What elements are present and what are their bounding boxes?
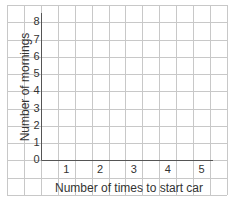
x-tick-label: 2 bbox=[93, 164, 107, 175]
x-axis-title: Number of times to start car bbox=[55, 181, 203, 195]
y-tick-label: 8 bbox=[28, 16, 40, 27]
y-axis-title: Number of mornings bbox=[18, 27, 32, 147]
y-tick-label: 0 bbox=[28, 154, 40, 165]
x-tick-label: 4 bbox=[161, 164, 175, 175]
x-tick-label: 5 bbox=[195, 164, 209, 175]
x-tick-label: 3 bbox=[127, 164, 141, 175]
x-tick-label: 1 bbox=[59, 164, 73, 175]
